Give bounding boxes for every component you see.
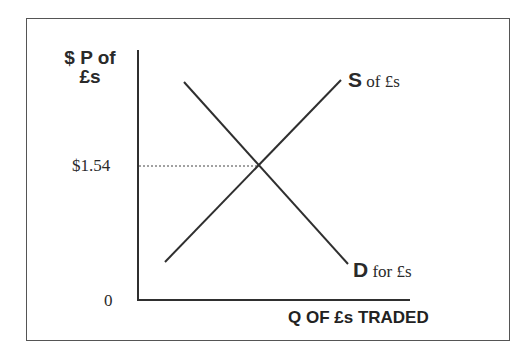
y-axis-label: $ P of £s (52, 48, 128, 86)
supply-letter: S (348, 68, 362, 91)
supply-curve (165, 80, 341, 262)
y-axis-label-line1: $ P of (52, 48, 128, 67)
origin-label: 0 (104, 291, 113, 311)
demand-letter: D (353, 258, 368, 281)
y-axis-label-line2: £s (52, 67, 128, 86)
supply-curve-label: S of £s (348, 68, 400, 92)
demand-suffix: for £s (372, 262, 411, 281)
demand-curve-label: D for £s (353, 258, 412, 282)
demand-curve (184, 82, 348, 264)
equilibrium-price-tick: $1.54 (72, 156, 110, 176)
supply-suffix: of £s (366, 72, 400, 91)
x-axis-label: Q OF £s TRADED (288, 308, 429, 328)
